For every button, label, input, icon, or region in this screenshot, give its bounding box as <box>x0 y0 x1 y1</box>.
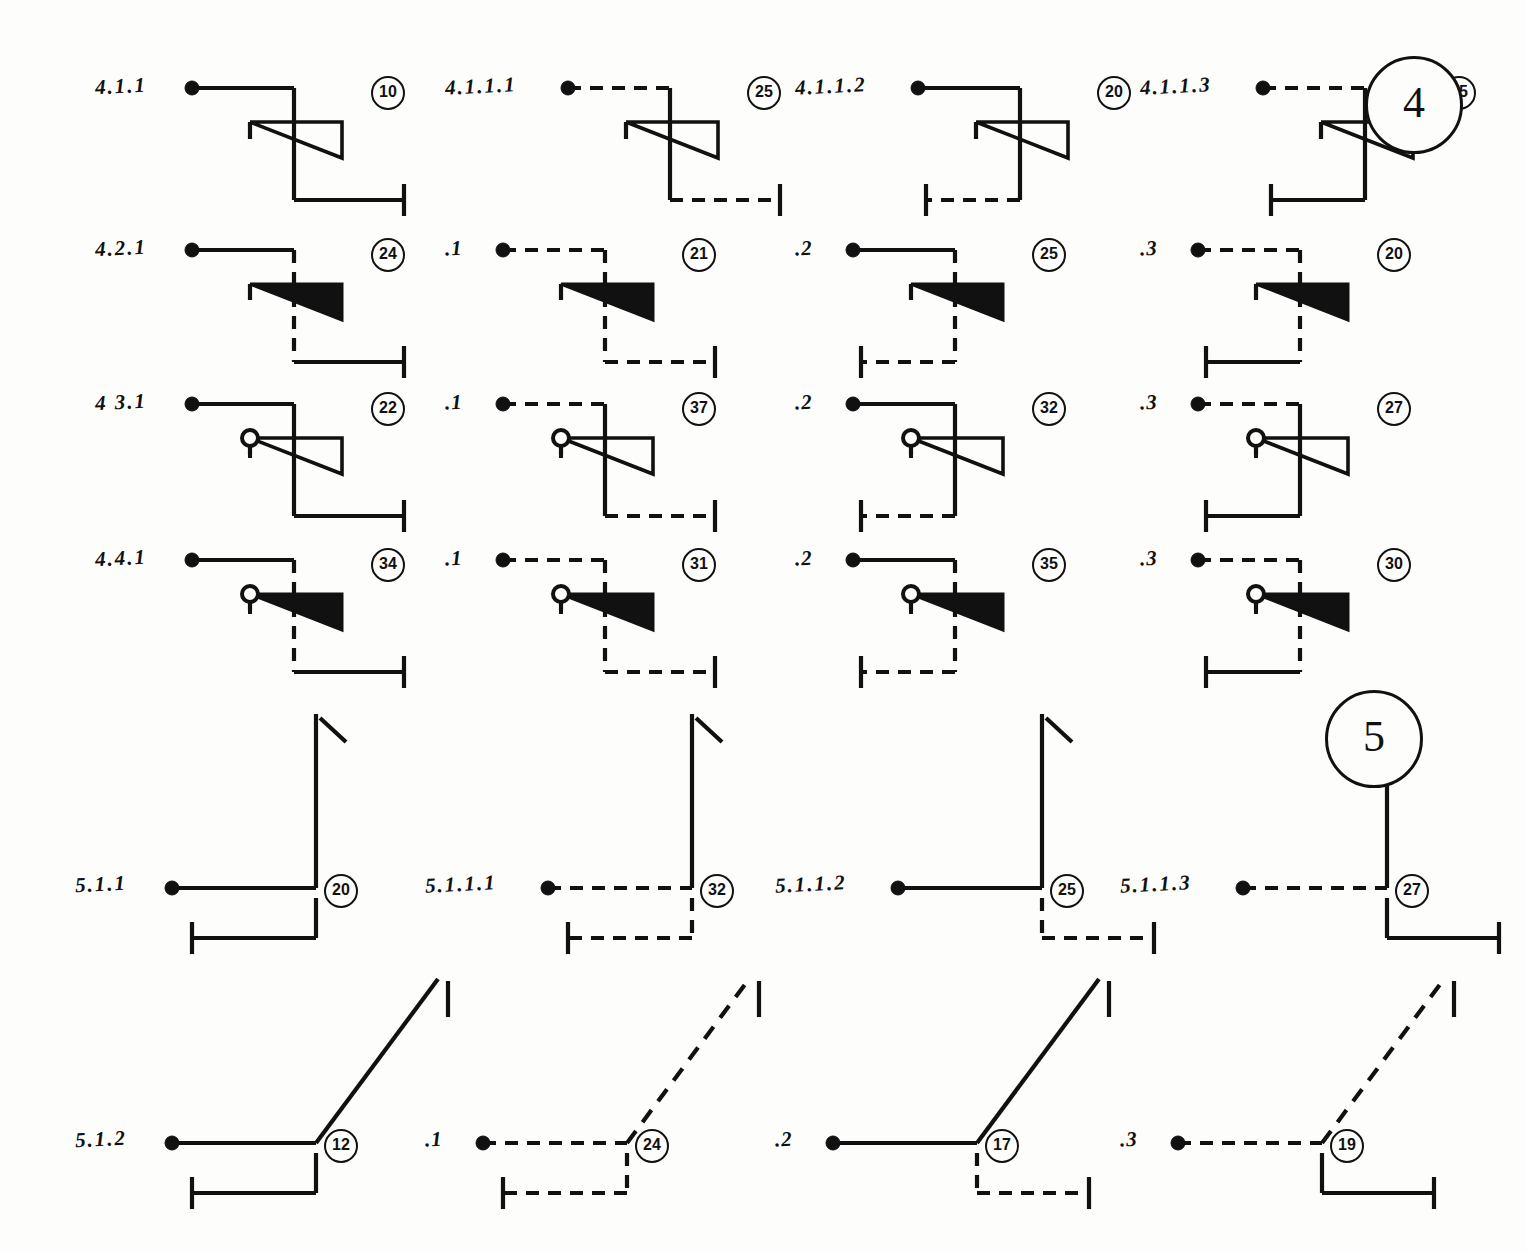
row-label-row-4-3-c2: .2 <box>794 390 813 416</box>
contact-symbol <box>847 548 1107 693</box>
terminal-dot <box>846 553 860 567</box>
row-label-row-4-1-c2: 4.1.1.2 <box>794 72 867 101</box>
vertical-riser-symbol <box>542 710 822 940</box>
contact-symbol <box>186 548 446 693</box>
terminal-dot <box>846 243 860 257</box>
terminal-dot <box>891 881 905 895</box>
number-badge-row-5-1-c2: 25 <box>1050 874 1084 908</box>
contact-symbol <box>186 392 446 537</box>
break-contact-circle <box>242 586 258 602</box>
number-badge-row-5-2-c2: 17 <box>985 1129 1019 1163</box>
terminal-dot <box>826 1136 840 1150</box>
terminal-dot <box>496 397 510 411</box>
break-contact-circle <box>1248 586 1264 602</box>
number-badge-row-4-2-c0: 24 <box>371 238 405 272</box>
row-label-row-4-1-c0: 4.1.1 <box>94 73 147 101</box>
terminal-dot <box>165 1136 179 1150</box>
number-badge-row-5-1-c3: 27 <box>1395 874 1429 908</box>
contact-blade-filled <box>1256 594 1348 630</box>
contact-symbol <box>497 548 757 693</box>
terminal-dot <box>165 881 179 895</box>
diagonal-line <box>316 979 438 1143</box>
terminal-dot <box>1236 881 1250 895</box>
contact-symbol <box>497 238 757 383</box>
diagonal-riser-symbol <box>827 965 1107 1195</box>
number-badge-row-4-1-c2: 20 <box>1097 76 1131 110</box>
break-contact-circle <box>1248 430 1264 446</box>
terminal-dot <box>1256 81 1270 95</box>
riser-tick <box>320 718 346 742</box>
number-badge-row-4-1-c0: 10 <box>371 76 405 110</box>
row-label-row-4-4-c3: .3 <box>1139 546 1158 572</box>
number-badge-row-5-1-c1: 32 <box>700 874 734 908</box>
contact-symbol <box>912 76 1172 221</box>
terminal-dot <box>1191 553 1205 567</box>
number-badge-row-4-3-c0: 22 <box>371 392 405 426</box>
row-label-row-4-1-c3: 4.1.1.3 <box>1139 72 1212 101</box>
terminal-dot <box>496 243 510 257</box>
break-contact-circle <box>553 430 569 446</box>
contact-blade-filled <box>911 284 1003 320</box>
terminal-dot <box>846 397 860 411</box>
contact-symbol <box>847 238 1107 383</box>
terminal-dot <box>1171 1136 1185 1150</box>
break-contact-circle <box>553 586 569 602</box>
diagonal-line <box>977 979 1099 1143</box>
terminal-dot <box>541 881 555 895</box>
row-label-row-5-1-c1: 5.1.1.1 <box>424 870 497 899</box>
contact-symbol <box>186 76 446 221</box>
number-badge-row-5-2-c3: 19 <box>1330 1129 1364 1163</box>
number-badge-row-4-3-c3: 27 <box>1377 392 1411 426</box>
terminal-dot <box>496 553 510 567</box>
terminal-dot <box>185 397 199 411</box>
row-label-row-5-1-c2: 5.1.1.2 <box>774 870 847 899</box>
contact-symbol <box>1192 392 1452 537</box>
riser-tick <box>696 718 722 742</box>
number-badge-row-4-2-c1: 21 <box>682 238 716 272</box>
contact-symbol <box>847 392 1107 537</box>
contact-symbol <box>186 238 446 383</box>
terminal-dot <box>476 1136 490 1150</box>
row-label-row-5-2-c0: 5.1.2 <box>74 1126 127 1154</box>
riser-tick <box>1046 718 1072 742</box>
contact-blade-filled <box>911 594 1003 630</box>
terminal-dot <box>561 81 575 95</box>
number-badge-row-5-2-c0: 12 <box>324 1129 358 1163</box>
number-badge-row-4-3-c2: 32 <box>1032 392 1066 426</box>
diagonal-line <box>1322 979 1444 1143</box>
row-label-row-4-2-c0: 4.2.1 <box>94 235 147 263</box>
row-label-row-4-3-c0: 4 3.1 <box>94 389 147 417</box>
break-contact-circle <box>903 430 919 446</box>
row-label-row-4-2-c2: .2 <box>794 236 813 262</box>
terminal-dot <box>1191 397 1205 411</box>
row-label-row-5-2-c2: .2 <box>774 1127 793 1153</box>
contact-blade-filled <box>250 284 342 320</box>
contact-symbol <box>497 392 757 537</box>
contact-blade-filled <box>561 284 653 320</box>
page-marker-4: 4 <box>1365 56 1463 154</box>
row-label-row-4-3-c1: .1 <box>444 390 463 416</box>
contact-symbol <box>1192 238 1452 383</box>
terminal-dot <box>1191 243 1205 257</box>
terminal-dot <box>911 81 925 95</box>
break-contact-circle <box>903 586 919 602</box>
number-badge-row-4-4-c1: 31 <box>682 548 716 582</box>
row-label-row-5-1-c3: 5.1.1.3 <box>1119 870 1192 899</box>
row-label-row-4-4-c0: 4.4.1 <box>94 545 147 573</box>
drawing-sheet: 4.1.1104.1.1.1254.1.1.2204.1.1.3154.2.12… <box>0 0 1526 1252</box>
row-label-row-4-2-c3: .3 <box>1139 236 1158 262</box>
number-badge-row-5-2-c1: 24 <box>635 1129 669 1163</box>
number-badge-row-4-3-c1: 37 <box>682 392 716 426</box>
page-marker-5: 5 <box>1325 690 1423 788</box>
row-label-row-4-4-c2: .2 <box>794 546 813 572</box>
vertical-riser-symbol <box>166 710 446 940</box>
diagonal-line <box>627 979 749 1143</box>
contact-blade-filled <box>250 594 342 630</box>
row-label-row-5-2-c1: .1 <box>424 1127 443 1153</box>
vertical-riser-symbol <box>892 710 1172 940</box>
row-label-row-5-1-c0: 5.1.1 <box>74 871 127 899</box>
row-label-row-4-2-c1: .1 <box>444 236 463 262</box>
contact-symbol <box>1192 548 1452 693</box>
terminal-dot <box>185 243 199 257</box>
number-badge-row-4-1-c1: 25 <box>747 76 781 110</box>
